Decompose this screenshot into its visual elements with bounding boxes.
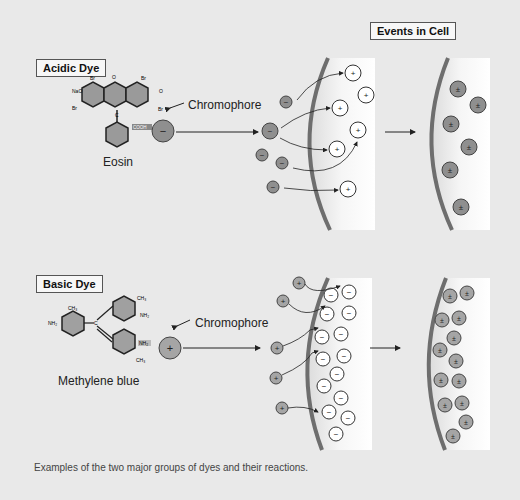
svg-text:CH₃: CH₃ xyxy=(137,295,146,301)
svg-text:±: ± xyxy=(465,290,469,297)
svg-text:+: + xyxy=(274,374,279,383)
svg-text:NH₂: NH₂ xyxy=(140,312,149,318)
svg-text:CH₃: CH₃ xyxy=(68,305,77,311)
svg-text:+: + xyxy=(275,344,280,353)
svg-text:−: − xyxy=(335,370,340,379)
svg-text:+: + xyxy=(167,342,173,354)
svg-text:−: − xyxy=(327,408,332,417)
svg-text:+: + xyxy=(280,404,285,413)
svg-text:−: − xyxy=(342,352,347,361)
svg-text:+: + xyxy=(346,185,351,194)
svg-text:±: ± xyxy=(440,317,444,324)
svg-text:±: ± xyxy=(451,433,455,440)
svg-text:−: − xyxy=(334,430,339,439)
svg-text:−: − xyxy=(280,159,285,168)
svg-text:−: − xyxy=(325,310,330,319)
svg-text:±: ± xyxy=(457,315,461,322)
svg-text:+: + xyxy=(351,69,356,78)
svg-text:+: + xyxy=(338,104,343,113)
svg-text:O: O xyxy=(159,88,163,94)
svg-text:−: − xyxy=(321,355,326,364)
svg-text:CH₃: CH₃ xyxy=(136,357,145,363)
methylene-blue-structure: C NH₂ CH₃ CH₃ NH₂ NH₂ CH₃ xyxy=(48,295,151,363)
svg-text:±: ± xyxy=(449,120,454,129)
svg-text:−: − xyxy=(268,127,273,136)
acidic-chromophore-ion: − xyxy=(152,120,174,142)
svg-text:O: O xyxy=(112,74,116,80)
svg-text:−: − xyxy=(260,151,265,160)
basic-chromophore-ion: + xyxy=(159,337,181,359)
svg-text:C: C xyxy=(115,112,119,118)
svg-text:±: ± xyxy=(456,85,461,94)
svg-text:±: ± xyxy=(459,203,464,212)
svg-text:±: ± xyxy=(457,378,461,385)
svg-text:±: ± xyxy=(438,347,442,354)
svg-text:+: + xyxy=(297,279,302,288)
svg-text:NH₂: NH₂ xyxy=(48,320,57,326)
svg-text:−: − xyxy=(347,309,352,318)
svg-text:Br: Br xyxy=(90,75,95,81)
svg-text:±: ± xyxy=(476,101,481,110)
figure-caption: Examples of the two major groups of dyes… xyxy=(34,462,308,473)
svg-text:−: − xyxy=(284,98,289,107)
svg-text:±: ± xyxy=(448,293,452,300)
svg-text:NaO: NaO xyxy=(72,88,82,94)
svg-text:Br: Br xyxy=(158,106,163,112)
svg-text:−: − xyxy=(347,288,352,297)
svg-text:Br: Br xyxy=(141,75,146,81)
eosin-structure: NaO Br Br Br Br O O C COOH xyxy=(72,74,163,147)
svg-text:−: − xyxy=(346,414,351,423)
svg-text:±: ± xyxy=(467,143,472,152)
svg-text:+: + xyxy=(364,91,369,100)
svg-text:−: − xyxy=(329,291,334,300)
svg-text:±: ± xyxy=(460,400,464,407)
svg-text:−: − xyxy=(160,125,166,137)
svg-text:±: ± xyxy=(439,377,443,384)
svg-text:NH₂: NH₂ xyxy=(139,340,148,346)
svg-text:−: − xyxy=(339,394,344,403)
svg-text:Br: Br xyxy=(72,105,77,111)
svg-text:−: − xyxy=(322,382,327,391)
svg-text:±: ± xyxy=(448,166,453,175)
svg-text:COOH: COOH xyxy=(133,125,147,130)
svg-text:−: − xyxy=(271,183,276,192)
diagram-canvas: NaO Br Br Br Br O O C COOH − −−−−− +++++… xyxy=(0,0,520,500)
svg-text:±: ± xyxy=(454,358,458,365)
svg-text:+: + xyxy=(335,145,340,154)
svg-text:±: ± xyxy=(452,335,456,342)
svg-text:−: − xyxy=(339,330,344,339)
svg-text:±: ± xyxy=(464,419,468,426)
svg-text:+: + xyxy=(356,126,361,135)
svg-text:+: + xyxy=(281,297,286,306)
svg-text:±: ± xyxy=(443,402,447,409)
svg-text:C: C xyxy=(94,320,98,326)
svg-text:−: − xyxy=(320,333,325,342)
